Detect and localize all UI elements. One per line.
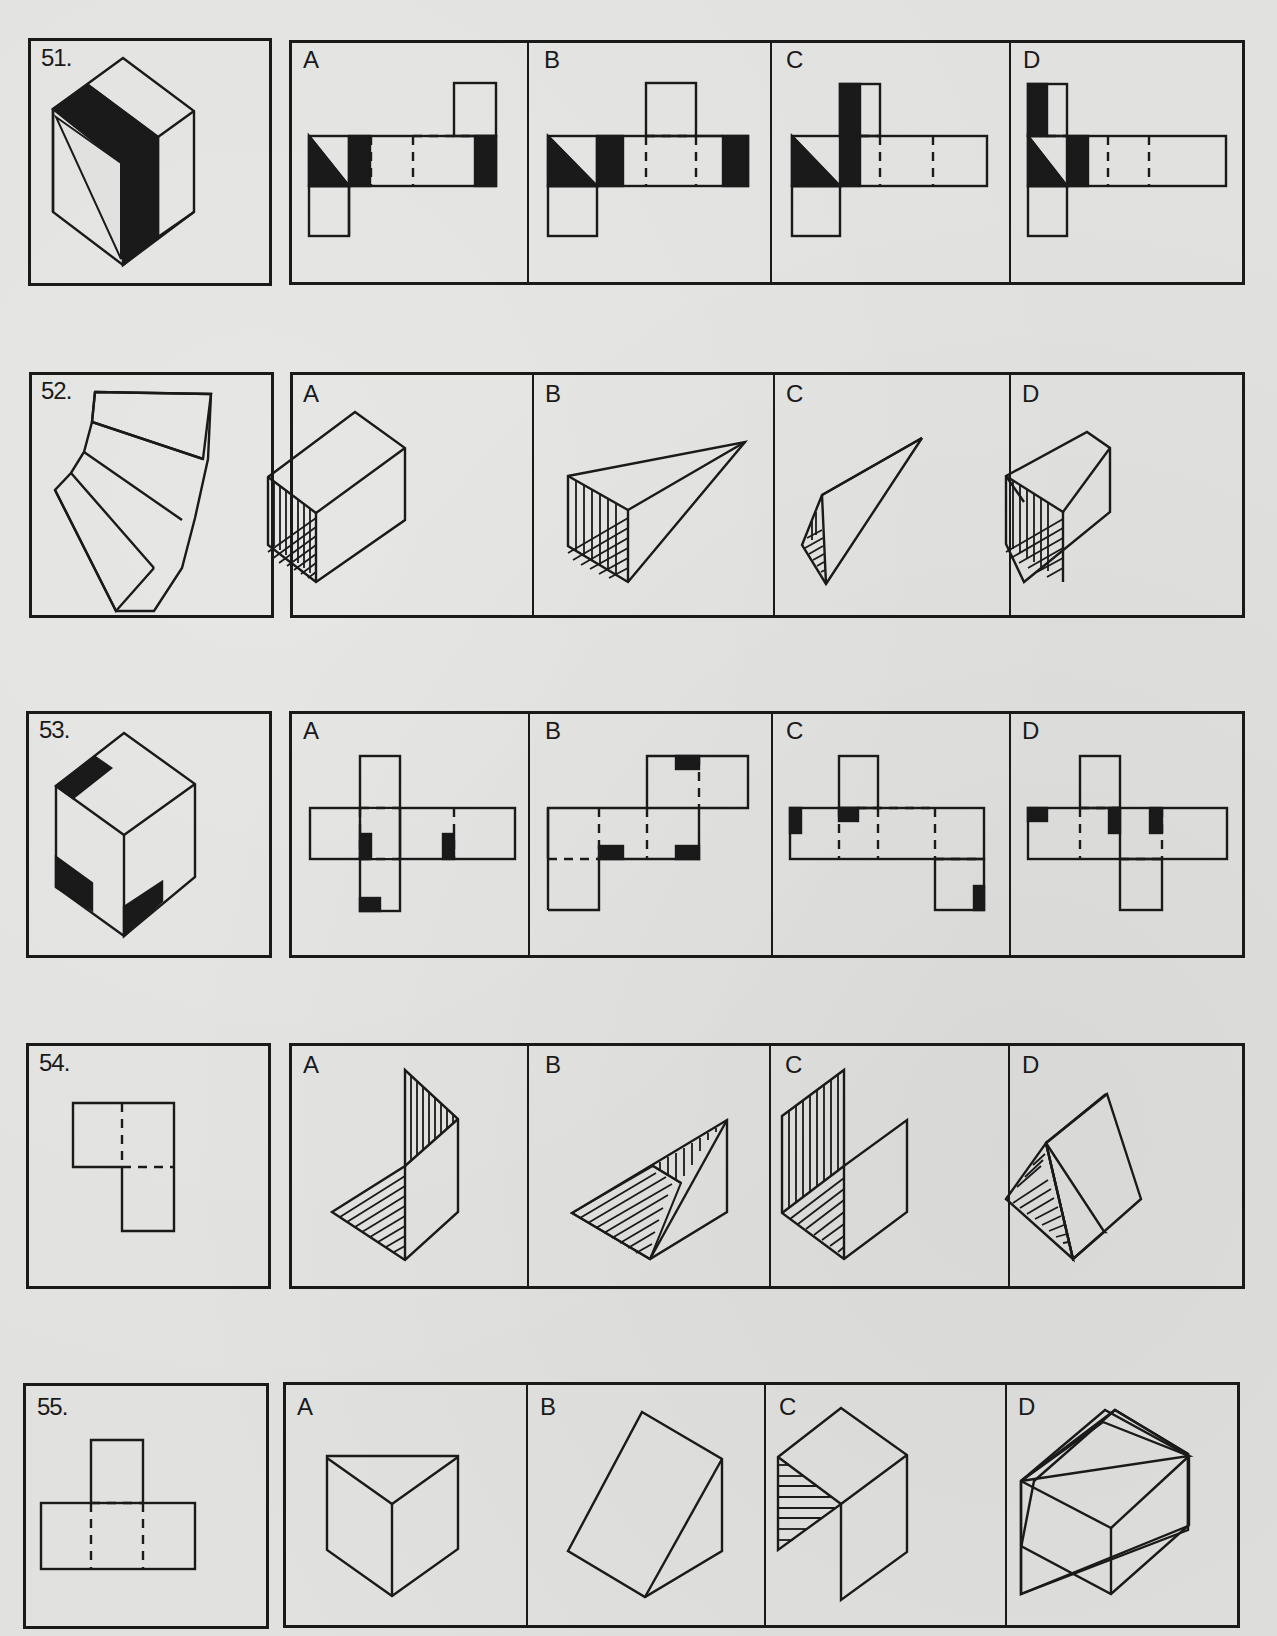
option-d-box (0, 0, 1277, 1636)
